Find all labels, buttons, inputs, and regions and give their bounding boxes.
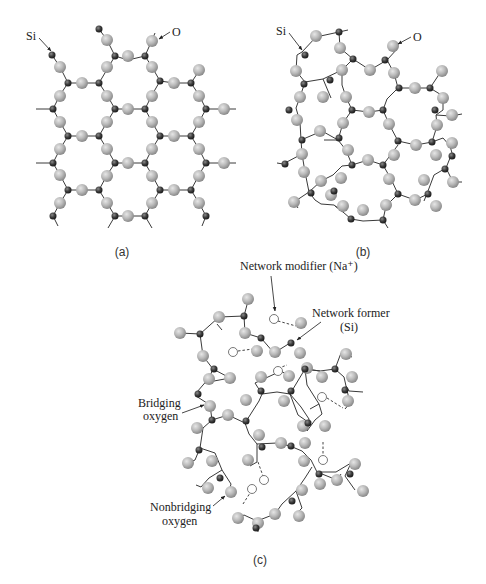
- panel-a-si-label: Si: [26, 29, 37, 43]
- panel-a-caption: (a): [115, 245, 130, 259]
- nonbridging-oxygen-label-line2: oxygen: [162, 514, 197, 528]
- panel-c-caption: (c): [253, 553, 267, 567]
- panel-c-silicon-atoms: [195, 313, 354, 532]
- network-former-label-line1: Network former: [312, 306, 390, 320]
- network-former-label-line2: (Si): [340, 320, 358, 334]
- panel-c-bonds: [180, 298, 363, 532]
- bridging-oxygen-label-line1: Bridging: [138, 396, 181, 410]
- panel-a-bonds: [36, 29, 236, 228]
- nonbridging-oxygen-arrow: [213, 496, 225, 506]
- network-modifier-label: Network modifier (Na⁺): [240, 259, 358, 273]
- panel-b-amorphous-silica: Si O (b): [276, 24, 462, 259]
- panel-c-soda-silica-glass: Network modifier (Na⁺) Network former (S…: [138, 259, 390, 567]
- panel-b-caption: (b): [356, 245, 371, 259]
- panel-a-si-arrow: [39, 38, 51, 51]
- silica-structure-figure: Si O (a): [0, 0, 486, 584]
- panel-b-o-label: O: [413, 30, 422, 44]
- panel-b-o-arrow: [398, 37, 411, 44]
- bridging-oxygen-label-line2: oxygen: [143, 409, 178, 423]
- panel-a-crystalline-silica: Si O (a): [26, 25, 236, 259]
- nonbridging-oxygen-label-line1: Nonbridging: [150, 500, 211, 514]
- panel-a-o-arrow: [159, 32, 170, 39]
- panel-a-o-label: O: [172, 25, 181, 39]
- panel-b-silicon-atoms: [282, 29, 456, 224]
- panel-a-oxygen-atoms: [54, 34, 230, 222]
- panel-b-si-label: Si: [276, 24, 287, 38]
- network-modifier-arrow: [271, 276, 275, 311]
- panel-b-si-arrow: [289, 33, 302, 50]
- bridging-oxygen-arrow: [182, 405, 204, 413]
